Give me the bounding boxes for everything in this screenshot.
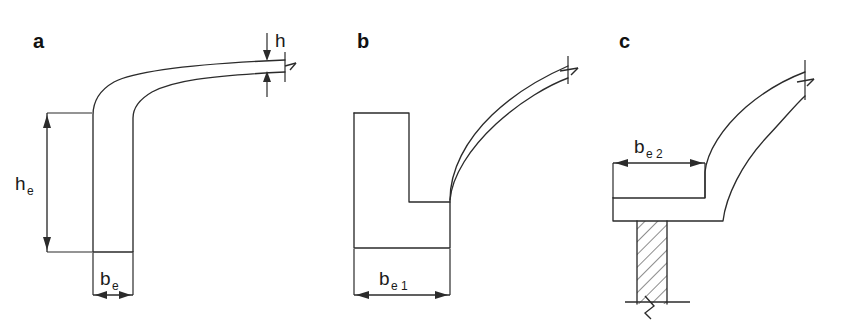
panel-letter-b: b bbox=[357, 30, 369, 52]
panel-b-be1-label-base: b bbox=[379, 268, 390, 289]
panel-c-be2-label-base: b bbox=[634, 136, 645, 157]
panel-c-be2-label-sub: e 2 bbox=[646, 147, 663, 161]
panel-c-stem-hatch-fill bbox=[637, 221, 667, 304]
panel-a-be-label-base: b bbox=[100, 268, 111, 289]
canvas-background bbox=[0, 0, 854, 328]
panel-b-be1-label-sub: e 1 bbox=[391, 279, 408, 293]
figure-container: a h bbox=[0, 0, 854, 328]
panel-a-he-label-base: h bbox=[15, 173, 26, 194]
panel-a-be-label-sub: e bbox=[112, 279, 119, 293]
panel-letter-c: c bbox=[619, 30, 630, 52]
technical-drawing-svg: a h bbox=[0, 0, 854, 328]
panel-letter-a: a bbox=[33, 30, 45, 52]
panel-a-he-label-sub: e bbox=[27, 184, 34, 198]
panel-a-h-label: h bbox=[275, 30, 286, 51]
